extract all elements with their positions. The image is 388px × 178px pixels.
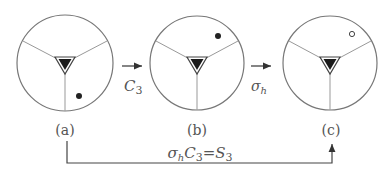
open-dot-icon [349, 31, 354, 36]
panel-label-a: (a) [55, 122, 74, 138]
panel-b: (b) [150, 16, 244, 138]
arrow-sigma-h: σh [251, 66, 271, 96]
filled-dot-icon [215, 33, 221, 39]
filled-dot-icon [76, 93, 82, 99]
svg-text:C3: C3 [124, 77, 142, 97]
arrow-c3: C3 [122, 66, 142, 97]
svg-text:σh: σh [251, 78, 267, 96]
symmetry-operation-diagram: (a) C3 (b) σh (c) σhC3=S3 [0, 0, 388, 178]
s3-equation: σhC3=S3 [167, 144, 232, 164]
panel-c: (c) [283, 16, 377, 138]
panel-label-c: (c) [322, 122, 341, 138]
arrow-s3: σhC3=S3 [67, 141, 332, 164]
panel-label-b: (b) [187, 122, 207, 138]
panel-a: (a) [17, 15, 113, 138]
